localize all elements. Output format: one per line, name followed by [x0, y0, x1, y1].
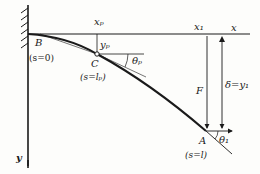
beam-deflection-diagram: xₚ yₚ B (s=0) C (s=lₚ) θₚ x₁ x F δ=y₁ A …	[0, 0, 260, 174]
diagram-graphics	[0, 0, 260, 174]
label-point-C: C	[91, 59, 99, 69]
label-s-l: (s=l)	[185, 151, 207, 160]
label-theta-1: θ₁	[219, 135, 229, 145]
label-xp: xₚ	[94, 17, 104, 27]
fixed-wall	[21, 5, 28, 166]
deflected-beam	[28, 34, 206, 131]
label-force: F	[196, 86, 203, 96]
label-yp: yₚ	[100, 40, 110, 50]
label-x1: x₁	[194, 22, 204, 32]
label-point-B: B	[35, 38, 42, 48]
label-s-zero: (s=0)	[29, 54, 54, 63]
label-point-A: A	[199, 136, 206, 146]
point-C-marker	[95, 52, 99, 56]
label-delta: δ=y₁	[225, 80, 249, 90]
label-theta-p: θₚ	[132, 56, 142, 66]
label-y-axis: y	[16, 153, 22, 163]
label-s-lp: (s=lₚ)	[80, 73, 106, 82]
label-x-axis: x	[231, 23, 237, 33]
